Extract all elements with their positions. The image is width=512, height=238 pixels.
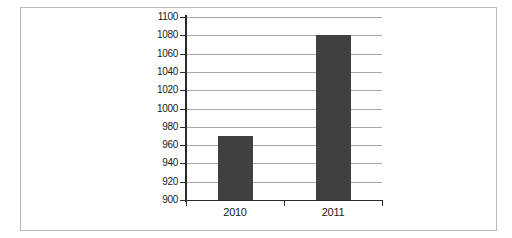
y-axis-tick (180, 90, 186, 91)
y-axis-tick (180, 145, 186, 146)
y-axis-tick-label: 960 (146, 140, 178, 150)
x-axis-tick (284, 200, 285, 206)
y-gridline (186, 72, 382, 73)
y-axis-tick (180, 127, 186, 128)
y-axis-tick-label: 900 (146, 195, 178, 205)
y-axis-tick-label: 1040 (146, 67, 178, 77)
y-axis-tick (180, 182, 186, 183)
x-axis-label-2011: 2011 (303, 206, 363, 218)
y-axis-tick-label: 920 (146, 177, 178, 187)
y-axis-tick (180, 109, 186, 110)
bar-2010[interactable] (218, 136, 253, 200)
y-gridline (186, 182, 382, 183)
y-gridline (186, 54, 382, 55)
y-axis-tick-label: 1020 (146, 85, 178, 95)
y-axis-tick (180, 163, 186, 164)
y-gridline (186, 163, 382, 164)
y-axis-tick-label: 1080 (146, 30, 178, 40)
y-gridline (186, 109, 382, 110)
y-axis-tick-label: 940 (146, 158, 178, 168)
plot-area (186, 17, 382, 200)
y-axis-tick (180, 17, 186, 18)
chart-figure: Number of complaints 9009209409609801000… (0, 0, 512, 238)
x-axis-tick (186, 200, 187, 206)
bar-2011[interactable] (316, 35, 351, 200)
y-gridline (186, 90, 382, 91)
y-axis-tick-labels: 900920940960980100010201040106010801100 (144, 0, 178, 238)
y-axis-tick (180, 54, 186, 55)
y-gridline (186, 35, 382, 36)
x-axis-tick (382, 200, 383, 206)
y-axis-tick-label: 1100 (146, 12, 178, 22)
x-axis-label-2010: 2010 (205, 206, 265, 218)
y-gridline (186, 127, 382, 128)
y-axis-tick-label: 1060 (146, 49, 178, 59)
y-gridline (186, 17, 382, 18)
y-gridline (186, 145, 382, 146)
y-axis-tick (180, 72, 186, 73)
y-axis-tick (180, 35, 186, 36)
y-axis-tick-label: 1000 (146, 104, 178, 114)
y-axis-tick-label: 980 (146, 122, 178, 132)
